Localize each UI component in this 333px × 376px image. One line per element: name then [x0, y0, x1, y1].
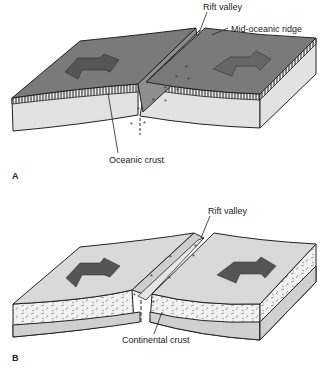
- diagram-canvas: * * * * * * * * * * Rift valley Mid-ocea…: [0, 0, 333, 376]
- label-rift-valley-a: Rift valley: [203, 2, 243, 12]
- label-oceanic-crust: Oceanic crust: [109, 155, 165, 165]
- label-mid-oceanic-ridge: Mid-oceanic ridge: [231, 24, 302, 34]
- svg-text:*: *: [164, 85, 167, 92]
- svg-text:*: *: [192, 253, 195, 260]
- svg-text:*: *: [152, 299, 155, 306]
- svg-text:*: *: [185, 64, 188, 71]
- label-rift-valley-b: Rift valley: [208, 206, 248, 216]
- svg-text:*: *: [169, 254, 172, 261]
- svg-text:*: *: [130, 121, 133, 128]
- svg-text:*: *: [143, 120, 146, 127]
- svg-text:*: *: [152, 97, 155, 104]
- panel-letter-a: A: [12, 171, 19, 181]
- svg-text:*: *: [168, 275, 171, 282]
- svg-text:*: *: [187, 76, 190, 83]
- panel-letter-b: B: [12, 353, 19, 363]
- panel-b-continental-rift: * * * * * * *: [13, 216, 316, 340]
- svg-text:*: *: [175, 74, 178, 81]
- svg-text:*: *: [176, 87, 179, 94]
- svg-text:*: *: [150, 273, 153, 280]
- svg-text:*: *: [164, 98, 167, 105]
- svg-text:*: *: [194, 243, 197, 250]
- svg-text:*: *: [137, 106, 140, 113]
- svg-text:*: *: [133, 292, 136, 299]
- label-continental-crust: Continental crust: [122, 335, 190, 345]
